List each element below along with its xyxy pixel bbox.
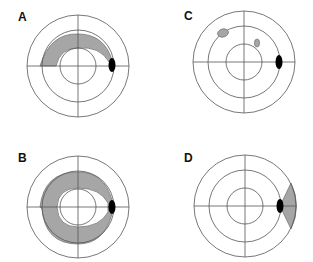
blind-spot-d (277, 199, 284, 213)
visual-field-diagrams (0, 0, 313, 262)
scotoma-2 (255, 39, 260, 47)
panel-a (27, 15, 129, 117)
panel-c (193, 11, 295, 113)
panel-b (27, 156, 129, 258)
blind-spot-a (109, 58, 116, 72)
panel-d (194, 155, 296, 257)
shaded-defect-b (40, 172, 112, 244)
blind-spot-c (276, 55, 283, 69)
blind-spot-b (109, 200, 116, 214)
